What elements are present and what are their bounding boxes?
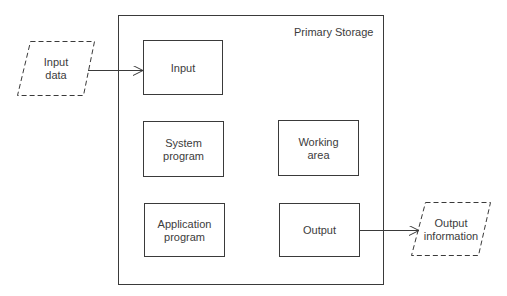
input-data-label-line1: Input [44,56,68,69]
input-data-label: Input data [24,42,88,96]
system-program-label-line1: System [165,137,202,150]
system-program-label-line2: program [163,150,204,163]
working-area-label-line1: Working [298,136,338,149]
output-information-label-line1: Output [434,217,467,230]
working-area-label: Working area [279,121,358,176]
input-box-label: Input [144,41,222,95]
system-program-label: System program [144,122,223,177]
output-information-label-line2: information [424,230,478,243]
input-data-label-line2: data [45,69,66,82]
working-area-label-line2: area [307,149,329,162]
output-box-label: Output [280,204,359,257]
application-program-label-line2: program [164,231,205,244]
output-box-label-line1: Output [303,224,336,237]
output-information-label: Output information [418,203,484,256]
application-program-label: Application program [145,204,224,257]
primary-storage-title: Primary Storage [294,26,373,39]
application-program-label-line1: Application [158,218,212,231]
input-box-label-line1: Input [171,62,195,75]
